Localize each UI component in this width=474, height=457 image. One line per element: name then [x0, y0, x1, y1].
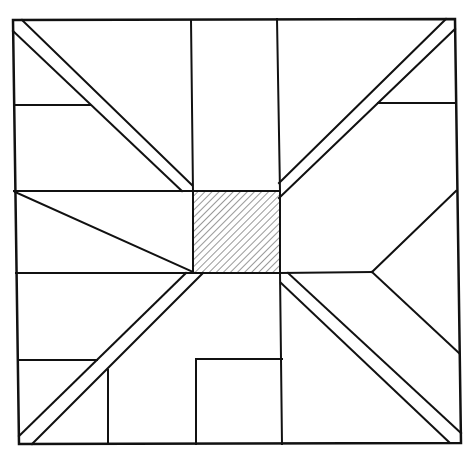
- quilt-block-diagram: [0, 0, 474, 457]
- center-hatched-square: [193, 191, 280, 273]
- right-middle-horizontal-line: [280, 272, 372, 273]
